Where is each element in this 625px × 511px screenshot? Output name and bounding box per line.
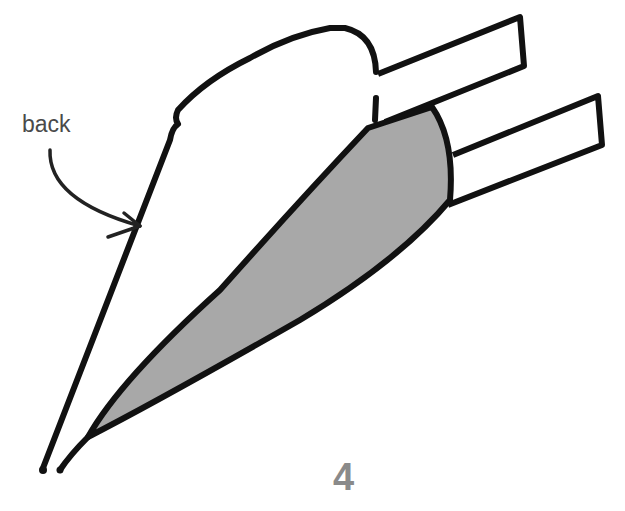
tip-dot-right bbox=[57, 467, 64, 474]
lower-tab bbox=[448, 96, 602, 205]
step-number: 4 bbox=[333, 456, 354, 499]
upper-tab bbox=[378, 17, 524, 122]
back-label: back bbox=[22, 111, 71, 138]
tip-dot-left bbox=[39, 466, 47, 474]
folded-shape-drawing bbox=[0, 0, 625, 511]
shaded-flap bbox=[88, 107, 451, 437]
diagram-canvas: back 4 bbox=[0, 0, 625, 511]
hump-gap-segment bbox=[375, 98, 376, 120]
front-edge bbox=[60, 437, 88, 470]
